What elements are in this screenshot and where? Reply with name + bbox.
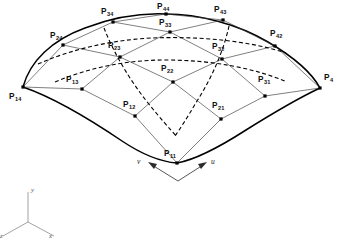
control-point-label-p33: P33 — [159, 18, 171, 28]
label-subscript: 22 — [167, 68, 173, 74]
u-parameter-label: u — [211, 157, 215, 166]
label-subscript: 4 — [330, 77, 334, 83]
label-subscript: 31 — [264, 79, 270, 85]
control-point-label-p41: P4 — [324, 73, 334, 83]
coordinate-axis-triad: y x z — [0, 186, 54, 239]
control-point-label-p31: P31 — [258, 75, 270, 85]
label-subscript: 12 — [129, 104, 135, 110]
control-point-dot-p33 — [168, 30, 171, 33]
control-point-label-p34: P34 — [101, 7, 114, 17]
z-axis-label: z — [0, 232, 3, 239]
control-point-dot-p22 — [171, 80, 174, 83]
control-point-dot-p42 — [273, 44, 276, 47]
v-arrow-line — [152, 165, 178, 181]
label-subscript: 33 — [165, 22, 171, 28]
y-axis-label: y — [30, 186, 35, 194]
label-subscript: 14 — [15, 96, 22, 102]
control-point-label-p22: P22 — [161, 64, 173, 74]
control-point-label-p11: P11 — [164, 149, 176, 159]
label-subscript: 21 — [218, 105, 224, 111]
control-polygon-col-3 — [82, 20, 223, 89]
control-point-dot-p31 — [263, 94, 266, 97]
control-point-dot-p44 — [164, 12, 167, 15]
control-point-label-p42: P42 — [270, 29, 282, 39]
control-point-dot-p21 — [219, 117, 222, 120]
z-axis-line — [3, 222, 28, 236]
boundary-curve-back-left — [23, 14, 166, 87]
control-polygon-row-2 — [63, 45, 221, 119]
control-point-dot-p14 — [21, 85, 24, 88]
label-subscript: 32 — [218, 46, 224, 52]
control-point-label-p24: P24 — [50, 31, 63, 41]
control-point-dot-p13 — [80, 87, 83, 90]
control-point-dot-p12 — [133, 114, 136, 117]
label-subscript: 43 — [220, 9, 226, 15]
control-polygon-row-3 — [113, 22, 265, 96]
label-subscript: 11 — [170, 153, 176, 159]
label-subscript: 44 — [163, 6, 170, 12]
control-point-dot-p34 — [111, 20, 114, 23]
v-arrow-head — [148, 162, 157, 169]
control-point-dot-p23 — [118, 55, 121, 58]
label-subscript: 23 — [114, 45, 120, 51]
control-point-label-p43: P43 — [214, 5, 226, 15]
control-point-dot-p24 — [61, 43, 64, 46]
control-point-dot-p11 — [175, 161, 178, 164]
control-point-dot-p43 — [221, 18, 224, 21]
u-arrow-head — [198, 162, 207, 169]
control-polygon-col-2 — [135, 46, 275, 116]
control-point-label-p13: P13 — [66, 75, 78, 85]
control-point-label-p12: P12 — [123, 100, 135, 110]
control-point-dot-p41 — [318, 86, 321, 89]
control-point-label-p21: P21 — [212, 101, 224, 111]
v-parameter-label: v — [137, 157, 141, 166]
control-polygon-row-1 — [23, 87, 177, 163]
label-subscript: 13 — [72, 79, 78, 85]
label-subscript: 34 — [107, 11, 114, 17]
control-point-label-p32: P32 — [212, 42, 224, 52]
isocurve-v-mid-upper — [38, 38, 286, 64]
label-subscript: 24 — [56, 35, 63, 41]
control-point-label-p44: P44 — [157, 2, 170, 12]
u-arrow-line — [178, 165, 203, 181]
control-point-dot-p32 — [220, 57, 223, 60]
surface-patch-svg: P11P12P13P14P21P22P23P24P31P32P33P34P4P4… — [0, 0, 338, 239]
control-point-label-p14: P14 — [9, 92, 22, 102]
parameter-direction-arrows: v u — [137, 157, 215, 181]
label-subscript: 42 — [276, 33, 282, 39]
